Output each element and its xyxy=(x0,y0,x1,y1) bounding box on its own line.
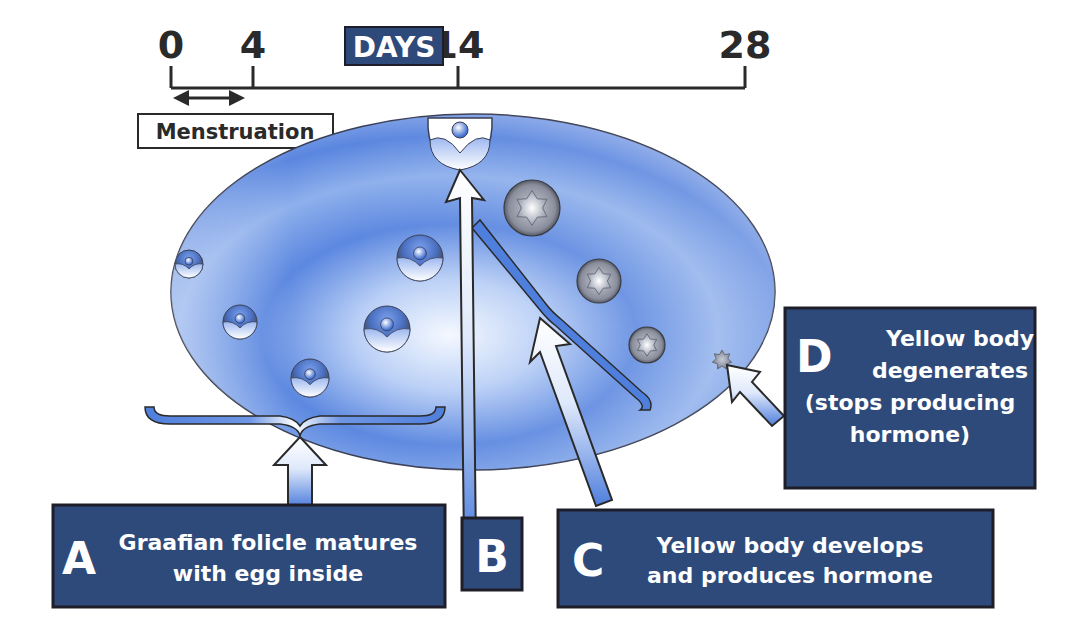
released-egg-icon xyxy=(452,122,468,138)
maturing-follicle xyxy=(397,235,443,281)
menstruation-label: Menstruation xyxy=(156,120,315,144)
arrow-a xyxy=(274,437,326,507)
stage-c-line-1: Yellow body develops xyxy=(655,533,923,558)
arrowhead-left-icon xyxy=(173,90,189,106)
egg-icon xyxy=(305,369,316,380)
stage-d-line-4: hormone) xyxy=(850,422,970,447)
stage-d-line-1: Yellow body xyxy=(885,326,1034,351)
stage-b-letter: B xyxy=(475,531,509,582)
days-label-text: DAYS xyxy=(353,31,436,64)
timeline-tick-label: 28 xyxy=(719,23,772,67)
yellow-body xyxy=(504,180,560,236)
timeline-tick-label: 4 xyxy=(240,23,266,67)
egg-icon xyxy=(235,314,245,324)
maturing-follicle xyxy=(364,306,410,352)
stage-c-letter: C xyxy=(572,535,604,586)
egg-icon xyxy=(185,257,193,265)
menstruation-span: Menstruation xyxy=(138,90,333,148)
stage-d-letter: D xyxy=(796,331,833,382)
stage-d-line-2: degenerates xyxy=(872,358,1028,383)
stage-d-box: D Yellow body degenerates (stops produci… xyxy=(785,308,1035,488)
stage-a-line-2: with egg inside xyxy=(173,561,363,586)
maturing-follicle xyxy=(175,250,203,278)
ovarian-cycle-diagram: 041428 DAYS Menstruation xyxy=(0,0,1089,641)
arrowhead-right-icon xyxy=(229,90,245,106)
maturing-follicle xyxy=(223,305,257,339)
stage-d-line-3: (stops producing xyxy=(805,390,1015,415)
stage-a-box: A Graafian folicle matures with egg insi… xyxy=(53,505,445,607)
yellow-body xyxy=(629,327,665,363)
stage-a-line-1: Graafian folicle matures xyxy=(119,530,418,555)
stage-c-line-2: and produces hormone xyxy=(647,563,933,588)
egg-icon xyxy=(381,318,394,331)
egg-icon xyxy=(414,247,427,260)
maturing-follicle xyxy=(291,359,329,397)
days-label: DAYS xyxy=(345,27,443,65)
arrow-d xyxy=(727,365,784,426)
stage-a-letter: A xyxy=(62,533,96,584)
stage-b-box: B xyxy=(462,518,522,590)
yellow-body xyxy=(577,259,621,303)
stage-c-box: C Yellow body develops and produces horm… xyxy=(558,510,993,607)
timeline-tick-label: 0 xyxy=(158,23,184,67)
